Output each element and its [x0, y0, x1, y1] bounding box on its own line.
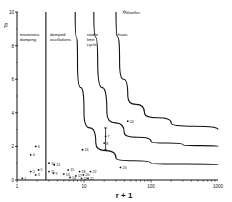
data-point-label: 6: [38, 145, 40, 149]
data-point-label: 8: [106, 142, 108, 146]
data-point: 16: [82, 148, 89, 152]
region-label: dampedoscillations: [50, 32, 71, 42]
x-tick-label: 1: [16, 184, 19, 189]
error-bar: [104, 128, 107, 150]
data-point-label: 13: [66, 173, 70, 177]
y-tick-label: 2: [11, 144, 14, 149]
data-point: 2: [30, 170, 35, 174]
axis-ticks: 02468101101001000: [9, 10, 224, 189]
data-point: 22: [90, 170, 97, 174]
data-point-label: blowflies: [126, 11, 140, 15]
x-tick-label: 10: [81, 184, 87, 189]
data-point-label: 5: [41, 168, 43, 172]
data-point: 3: [35, 173, 40, 177]
data-point-label: 1: [24, 177, 26, 181]
y-tick-label: 10: [9, 10, 15, 15]
data-point: 24: [127, 120, 134, 124]
data-point-label: 23: [122, 166, 126, 170]
y-axis-label: β: [3, 22, 8, 28]
data-point: blowflies: [123, 11, 140, 15]
data-point: 6: [35, 145, 40, 149]
boundary-curves: [46, 12, 218, 180]
data-point-label: 16: [85, 148, 89, 152]
boundary-curve: [116, 12, 218, 130]
x-axis-label: r + 1: [116, 191, 133, 200]
data-point-label: 24: [130, 120, 134, 124]
data-point: 13: [63, 173, 70, 177]
data-point: 23: [120, 166, 127, 170]
data-point-label: 2: [33, 170, 35, 174]
y-tick-label: 4: [11, 111, 14, 116]
data-point: 14: [69, 176, 76, 180]
data-point-label: 7: [108, 135, 110, 139]
region-label: chaos: [116, 32, 127, 37]
data-point-label: 3: [38, 173, 40, 177]
data-point-label: 20: [85, 173, 89, 177]
y-tick-label: 6: [11, 77, 14, 82]
data-point-label: 9: [55, 172, 57, 176]
region-labels: monotonicdampingdampedoscillationsstable…: [20, 32, 128, 47]
data-point-label: 21: [90, 177, 94, 181]
x-tick-label: 100: [147, 184, 155, 189]
data-point-label: 14: [72, 176, 76, 180]
data-point-label: 15: [70, 168, 74, 172]
stability-chart: 02468101101001000 monotonicdampingdamped…: [0, 0, 232, 202]
data-point: 4: [30, 153, 35, 157]
data-point: 5: [38, 168, 43, 172]
x-tick-label: 1000: [213, 184, 224, 189]
data-point-label: 4: [33, 153, 35, 157]
region-label: monotonicdamping: [20, 32, 41, 42]
y-tick-label: 0: [11, 178, 14, 183]
data-point-label: 12: [56, 163, 60, 167]
data-point-label: 22: [92, 170, 96, 174]
y-tick-label: 8: [11, 44, 14, 49]
